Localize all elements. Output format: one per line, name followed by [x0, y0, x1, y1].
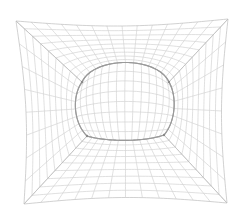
mesh-figure — [0, 0, 243, 219]
corner-node — [168, 81, 170, 83]
mesh-canvas — [0, 0, 243, 219]
corner-node — [81, 81, 83, 83]
corner-node — [163, 134, 165, 136]
corner-node — [86, 135, 88, 137]
mesh-grid-lines — [19, 20, 225, 202]
